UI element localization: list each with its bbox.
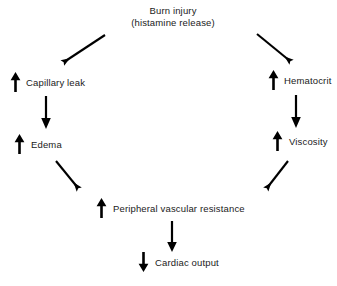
node-cardiac-output: Cardiac output — [138, 252, 219, 272]
node-capillary-leak: Capillary leak — [10, 72, 85, 92]
node-label-peripheral-vascular-resistance: Peripheral vascular resistance — [113, 203, 245, 214]
connector-burn-to-capillary-leak — [56, 31, 110, 69]
node-edema: Edema — [14, 134, 62, 154]
arrow-down-icon-cardiac-output — [138, 252, 149, 272]
diagram-title: Burn injury (histamine release) — [118, 5, 228, 28]
node-peripheral-vascular-resistance: Peripheral vascular resistance — [96, 198, 245, 218]
arrow-up-icon-hematocrit — [268, 70, 279, 90]
connector-hematocrit-to-viscosity — [288, 95, 304, 129]
arrow-up-icon-peripheral-vascular-resistance — [96, 198, 107, 218]
diagram-title-line-1: Burn injury — [118, 5, 228, 17]
arrow-up-icon-edema — [14, 134, 25, 154]
burn-injury-pathophysiology-diagram: Burn injury (histamine release) Capillar… — [0, 0, 337, 286]
connector-edema-to-pvr — [52, 158, 94, 198]
connector-capillary-leak-to-edema — [38, 96, 54, 130]
arrow-up-icon-viscosity — [272, 131, 283, 151]
connector-burn-to-hematocrit — [252, 30, 302, 68]
node-label-viscosity: Viscosity — [289, 136, 328, 147]
diagram-title-line-2: (histamine release) — [118, 17, 228, 29]
node-label-capillary-leak: Capillary leak — [26, 77, 85, 88]
node-label-edema: Edema — [31, 139, 62, 150]
node-viscosity: Viscosity — [272, 131, 328, 151]
arrow-up-icon-capillary-leak — [10, 72, 21, 92]
connector-viscosity-to-pvr — [258, 158, 300, 198]
connector-pvr-to-cardiac-output — [164, 221, 180, 253]
node-label-hematocrit: Hematocrit — [284, 75, 331, 86]
node-hematocrit: Hematocrit — [268, 70, 331, 90]
node-label-cardiac-output: Cardiac output — [155, 257, 219, 268]
